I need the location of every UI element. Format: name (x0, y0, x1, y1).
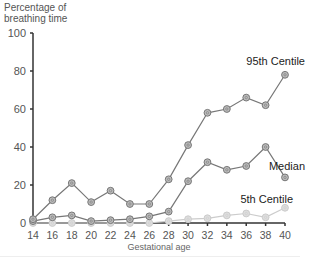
series-label: Median (269, 160, 305, 172)
x-tick-label: 16 (47, 229, 59, 241)
data-point-marker (107, 217, 114, 224)
data-point-marker (88, 218, 95, 225)
y-tick-label: 0 (20, 217, 26, 229)
data-point-marker (223, 106, 230, 113)
y-tick-label: 60 (14, 103, 26, 115)
data-point-marker (68, 220, 75, 227)
x-tick-label: 22 (105, 229, 117, 241)
x-tick-label: 34 (221, 229, 233, 241)
data-point-marker (49, 197, 56, 204)
data-point-marker (88, 199, 95, 206)
data-point-marker (204, 109, 211, 116)
data-point-marker (127, 201, 134, 208)
x-tick-label: 38 (260, 229, 272, 241)
data-point-marker (49, 214, 56, 221)
data-point-marker (165, 218, 172, 225)
data-point-marker (262, 214, 269, 221)
data-point-marker (223, 212, 230, 219)
y-tick-label: 40 (14, 141, 26, 153)
data-point-marker (243, 210, 250, 217)
series-label: 95th Centile (246, 55, 305, 67)
data-point-marker (185, 216, 192, 223)
divider (0, 256, 300, 257)
x-tick-label: 40 (279, 229, 291, 241)
data-point-marker (282, 204, 289, 211)
x-tick-label: 28 (163, 229, 175, 241)
data-point-marker (30, 216, 37, 223)
series-labels: 95th CentileMedian5th Centile (240, 55, 305, 205)
x-tick-label: 32 (202, 229, 214, 241)
x-tick-label: 24 (124, 229, 136, 241)
data-point-marker (165, 176, 172, 183)
data-point-marker (68, 180, 75, 187)
data-point-marker (223, 166, 230, 173)
data-point-marker (262, 102, 269, 109)
x-tick-label: 14 (27, 229, 39, 241)
x-tick-label: 36 (240, 229, 252, 241)
y-tick-label: 100 (8, 27, 26, 39)
data-point-marker (262, 144, 269, 151)
y-tick-label: 80 (14, 65, 26, 77)
x-tick-label: 18 (66, 229, 78, 241)
data-point-marker (68, 212, 75, 219)
data-point-marker (146, 220, 153, 227)
x-tick-label: 26 (143, 229, 155, 241)
data-point-marker (243, 94, 250, 101)
data-point-marker (204, 215, 211, 222)
data-point-marker (282, 174, 289, 181)
x-tick-label: 30 (182, 229, 194, 241)
y-tick-label: 20 (14, 179, 26, 191)
data-point-marker (185, 178, 192, 185)
data-point-marker (107, 187, 114, 194)
data-point-marker (146, 201, 153, 208)
data-point-marker (165, 208, 172, 215)
data-point-marker (146, 213, 153, 220)
data-point-marker (185, 142, 192, 149)
data-point-marker (127, 216, 134, 223)
data-point-marker (243, 163, 250, 170)
data-point-marker (204, 159, 211, 166)
data-point-marker (282, 71, 289, 78)
line-chart: 0204060801001416182022242628303234363840… (0, 0, 312, 263)
x-tick-label: 20 (85, 229, 97, 241)
series-label: 5th Centile (240, 193, 293, 205)
x-axis-title: Gestational age (127, 242, 190, 252)
